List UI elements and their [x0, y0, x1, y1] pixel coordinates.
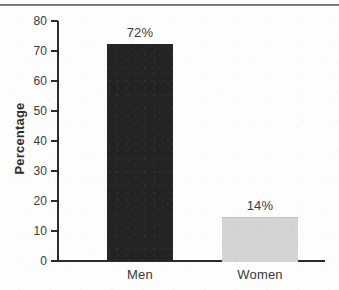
y-tick-label-60: 60 [3, 75, 47, 87]
y-tick-mark-40 [51, 140, 58, 142]
y-tick-mark-30 [51, 170, 58, 172]
y-tick-label-20: 20 [3, 195, 47, 207]
y-tick-label-0: 0 [3, 255, 47, 267]
y-tick-mark-60 [51, 80, 58, 82]
figure-panel: Percentage 80 70 60 50 40 30 20 10 0 72%… [0, 0, 339, 290]
y-tick-mark-50 [51, 110, 58, 112]
bar-men [107, 44, 173, 261]
y-tick-label-40: 40 [3, 135, 47, 147]
bar-value-label-women: 14% [222, 199, 298, 212]
y-tick-label-80: 80 [3, 15, 47, 27]
y-tick-label-50: 50 [3, 105, 47, 117]
y-tick-mark-0 [51, 260, 58, 262]
y-tick-label-70: 70 [3, 45, 47, 57]
y-tick-mark-70 [51, 50, 58, 52]
y-tick-mark-80 [51, 20, 58, 22]
y-tick-label-10: 10 [3, 225, 47, 237]
y-tick-label-30: 30 [3, 165, 47, 177]
y-tick-mark-10 [51, 230, 58, 232]
x-axis-category-label-men: Men [100, 268, 180, 281]
bar-chart-plot-area: Percentage 80 70 60 50 40 30 20 10 0 72%… [0, 0, 339, 290]
bar-value-label-men: 72% [107, 26, 173, 39]
y-tick-mark-20 [51, 200, 58, 202]
bar-women [222, 217, 298, 262]
x-axis-category-label-women: Women [218, 268, 302, 281]
